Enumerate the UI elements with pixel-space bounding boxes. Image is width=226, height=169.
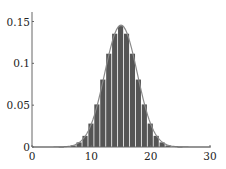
histogram-bar — [106, 54, 111, 147]
y-tick-label: 0.1 — [13, 57, 30, 69]
histogram-bar — [88, 124, 93, 147]
histogram-bar — [124, 34, 129, 147]
histogram-bar — [118, 26, 123, 147]
y-ticks: 00.050.10.15 — [7, 16, 34, 154]
x-tick-label: 20 — [144, 150, 157, 162]
y-tick-label: 0.05 — [7, 99, 30, 111]
histogram-bar — [136, 80, 141, 147]
histogram-bar — [112, 34, 117, 147]
x-tick-label: 30 — [203, 150, 216, 162]
histogram-bars — [59, 26, 183, 147]
histogram-bar — [82, 136, 87, 147]
y-tick-label: 0.15 — [7, 16, 30, 28]
y-tick-label: 0 — [23, 141, 30, 153]
histogram-bar — [130, 54, 135, 147]
x-tick-label: 10 — [85, 150, 98, 162]
chart: 0102030 00.050.10.15 — [0, 0, 226, 169]
